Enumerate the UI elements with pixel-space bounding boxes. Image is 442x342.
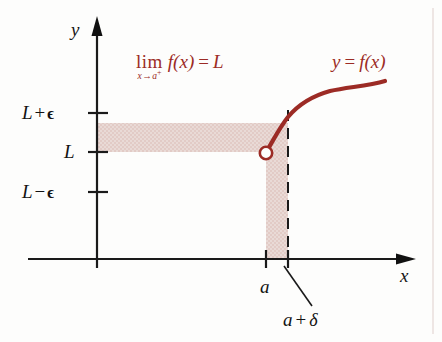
curve-label-expression: f(x) xyxy=(359,51,385,72)
a-plus-delta-leader-line xyxy=(284,266,312,306)
epsilon-symbol: ϵ xyxy=(47,105,54,122)
tick-base: a xyxy=(260,276,270,297)
limit-annotation: lim x→a+ f(x)=L xyxy=(136,52,224,71)
curve-label-equals: = xyxy=(340,51,359,72)
limit-right-sided-plus: + xyxy=(157,68,162,77)
tick-operator: + xyxy=(293,309,310,330)
x-tick-label-a-plus-delta: a+δ xyxy=(283,310,318,329)
y-axis-label: y xyxy=(71,20,79,39)
epsilon-symbol: ϵ xyxy=(47,184,54,201)
limit-arrow-icon: → xyxy=(142,71,153,81)
tick-base: L xyxy=(22,181,33,202)
y-tick-label-L-plus-epsilon: L+ϵ xyxy=(22,103,54,122)
x-axis-label: x xyxy=(400,266,408,285)
delta-strip-shading xyxy=(266,152,288,259)
curve-label: y=f(x) xyxy=(332,52,386,71)
y-tick-label-L: L xyxy=(64,142,75,161)
y-axis-arrowhead xyxy=(92,16,103,36)
limit-subscript: x→a+ xyxy=(137,69,161,82)
epsilon-band-shading xyxy=(97,123,288,152)
y-tick-label-L-minus-epsilon: L−ϵ xyxy=(22,182,54,201)
tick-operator: − xyxy=(33,181,48,202)
tick-base: L xyxy=(22,102,33,123)
open-endpoint-circle xyxy=(260,147,272,159)
limit-body: f(x)=L xyxy=(163,51,224,72)
tick-base: L xyxy=(64,141,75,162)
limit-definition-figure: y x L+ϵ L L−ϵ a a+δ lim x→a+ f(x)=L y=f(… xyxy=(0,0,442,342)
x-tick-label-a: a xyxy=(260,277,270,296)
x-axis-arrowhead xyxy=(396,254,416,265)
limit-operator-stack: lim x→a+ xyxy=(136,52,163,71)
limit-value: L xyxy=(213,51,224,72)
tick-operator: + xyxy=(33,102,48,123)
limit-equals-sign: = xyxy=(194,51,213,72)
tick-base: a xyxy=(283,309,293,330)
delta-symbol: δ xyxy=(309,310,317,330)
limit-function: f(x) xyxy=(168,51,194,72)
